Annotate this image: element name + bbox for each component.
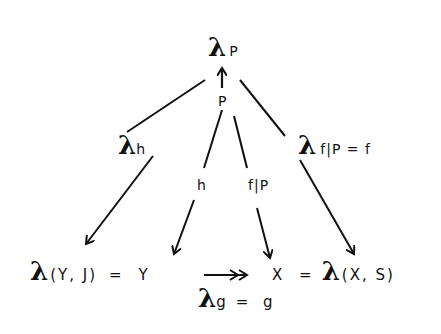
lambda-symbol: λ — [208, 32, 226, 62]
node-bottom-right: X =λ(X, S) — [272, 258, 395, 284]
lambda-symbol: λ — [118, 130, 136, 160]
node-lambda-p-sub: P — [229, 43, 237, 59]
node-bottom-left-args: (Y, J) — [50, 266, 97, 284]
lambda-symbol: λ — [198, 283, 216, 313]
arrow-lambda-fp-to-bottom-right — [300, 160, 354, 254]
lambda-symbol: λ — [30, 256, 48, 286]
node-lambda-h: λh — [118, 132, 145, 158]
lambda-symbol: λ — [322, 256, 340, 286]
edge-label-lambda-g: λg= g — [198, 285, 273, 311]
line-p-to-fp — [234, 116, 247, 168]
line-lambda-p-to-lambda-fp — [240, 80, 285, 136]
line-lambda-p-to-lambda-h — [127, 80, 205, 132]
node-lambda-fp: λf|P = f — [298, 132, 371, 158]
node-fp: f|P — [248, 178, 269, 192]
arrow-fp-to-x — [257, 208, 270, 258]
node-bottom-left-rest: = Y — [109, 266, 148, 284]
lambda-symbol: λ — [298, 130, 316, 160]
edge-label-lambda-g-sub: g — [216, 293, 226, 311]
arrow-lambda-h-to-bottom-left — [86, 156, 153, 244]
arrow-h-to-y — [174, 200, 194, 254]
node-h: h — [197, 178, 206, 192]
node-bottom-right-lead: X = — [272, 266, 312, 284]
node-bottom-right-args: (X, S) — [342, 266, 395, 284]
node-bottom-left: λ(Y, J)= Y — [30, 258, 148, 284]
arrow-y-to-x-surjection — [204, 270, 247, 280]
node-lambda-h-sub: h — [136, 141, 145, 157]
node-lambda-fp-sub: f|P = f — [320, 141, 371, 157]
node-p: P — [218, 94, 226, 108]
line-p-to-h — [204, 110, 222, 168]
node-lambda-p: λP — [208, 34, 238, 60]
edge-label-lambda-g-rest: = g — [236, 293, 273, 311]
